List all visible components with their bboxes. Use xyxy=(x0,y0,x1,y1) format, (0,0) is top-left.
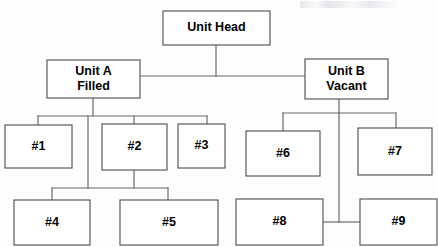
node-label-unit-a-line-1: Unit A xyxy=(75,64,111,78)
org-chart-canvas: Unit HeadUnit AFilledUnit BVacant#1#2#3#… xyxy=(0,0,438,247)
node-label-unit-a-line-2: Filled xyxy=(77,79,110,93)
node-layer: Unit HeadUnit AFilledUnit BVacant#1#2#3#… xyxy=(5,11,437,245)
node-pos-4[interactable]: #4 xyxy=(14,200,90,245)
node-pos-1[interactable]: #1 xyxy=(5,125,72,168)
node-pos-3[interactable]: #3 xyxy=(178,124,225,168)
node-label-unit-b-line-1: Unit B xyxy=(328,64,365,78)
node-unit-a[interactable]: Unit AFilled xyxy=(47,60,140,98)
node-pos-6[interactable]: #6 xyxy=(246,131,320,176)
node-pos-9[interactable]: #9 xyxy=(360,199,437,245)
node-label-pos-9: #9 xyxy=(392,214,406,228)
node-label-pos-4: #4 xyxy=(45,215,59,229)
node-label-pos-3: #3 xyxy=(195,138,209,152)
node-label-pos-5: #5 xyxy=(162,215,176,229)
node-label-unit-b-line-2: Vacant xyxy=(326,79,367,93)
org-chart-container: Unit HeadUnit AFilledUnit BVacant#1#2#3#… xyxy=(0,0,438,247)
node-label-pos-7: #7 xyxy=(388,144,402,158)
node-pos-7[interactable]: #7 xyxy=(358,128,432,175)
node-label-pos-6: #6 xyxy=(276,146,290,160)
node-unit-head[interactable]: Unit Head xyxy=(163,11,270,45)
node-pos-2[interactable]: #2 xyxy=(102,124,167,170)
node-label-pos-8: #8 xyxy=(273,214,287,228)
node-label-unit-head: Unit Head xyxy=(187,20,245,34)
node-pos-5[interactable]: #5 xyxy=(120,200,218,245)
node-pos-8[interactable]: #8 xyxy=(236,199,323,245)
node-unit-b[interactable]: Unit BVacant xyxy=(305,59,388,99)
node-label-pos-1: #1 xyxy=(32,139,46,153)
node-label-pos-2: #2 xyxy=(128,139,142,153)
